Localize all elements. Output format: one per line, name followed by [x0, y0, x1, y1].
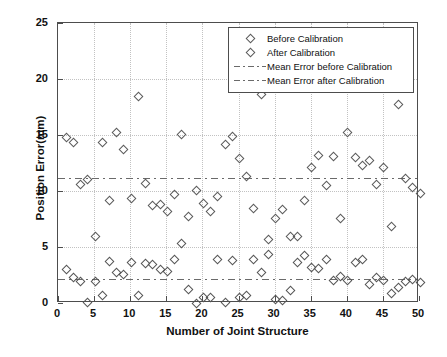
y-tick-label: 20	[0, 73, 56, 84]
data-point	[372, 179, 382, 189]
data-point	[162, 206, 172, 216]
x-axis-title: Number of Joint Structure	[57, 325, 418, 337]
data-point	[76, 277, 86, 287]
legend-label: Mean Error after Calibration	[267, 75, 384, 86]
x-tick-label: 25	[231, 308, 243, 319]
data-point	[386, 289, 396, 299]
x-tick-label: 35	[304, 308, 316, 319]
data-point	[328, 151, 338, 161]
data-point	[321, 254, 331, 264]
data-point	[220, 298, 230, 308]
data-point	[97, 290, 107, 300]
data-point	[227, 131, 237, 141]
data-point	[97, 138, 107, 148]
y-tick-label: 25	[0, 17, 56, 28]
data-point	[83, 297, 93, 307]
diamond-marker-icon	[245, 34, 255, 44]
data-point	[119, 144, 129, 154]
data-point	[242, 171, 252, 181]
data-point	[177, 239, 187, 249]
diamond-marker-icon	[245, 48, 255, 58]
y-tick-mark	[58, 303, 63, 304]
dashdot-line-icon	[234, 66, 266, 67]
data-point	[68, 138, 78, 148]
legend-label: After Calibration	[267, 47, 335, 58]
data-point	[112, 128, 122, 138]
x-tick-label: 10	[123, 308, 135, 319]
x-tick-label: 5	[90, 308, 96, 319]
data-point	[184, 212, 194, 222]
data-point	[278, 295, 288, 305]
data-point	[249, 254, 259, 264]
data-point	[206, 292, 216, 302]
legend[interactable]: Before CalibrationAfter CalibrationMean …	[228, 27, 414, 93]
legend-item[interactable]: Mean Error before Calibration	[233, 60, 409, 73]
legend-item[interactable]: Before Calibration	[233, 32, 409, 45]
x-tick-label: 20	[195, 308, 207, 319]
data-point	[415, 188, 425, 198]
data-point	[379, 162, 389, 172]
legend-label: Before Calibration	[267, 33, 343, 44]
figure-scatter-position-error: Position Error(mm) Number of Joint Struc…	[0, 0, 447, 357]
legend-item[interactable]: After Calibration	[233, 46, 409, 59]
data-point	[133, 92, 143, 102]
data-point	[126, 258, 136, 268]
data-point	[235, 153, 245, 163]
data-point	[300, 196, 310, 206]
data-point	[336, 214, 346, 224]
dashdot-line-icon	[234, 80, 266, 81]
data-point	[170, 189, 180, 199]
data-point	[292, 232, 302, 242]
data-point	[119, 270, 129, 280]
data-point	[292, 258, 302, 268]
data-point	[90, 232, 100, 242]
data-point	[365, 280, 375, 290]
data-point	[198, 198, 208, 208]
data-point	[263, 250, 273, 260]
data-point	[227, 255, 237, 265]
data-point	[206, 206, 216, 216]
x-tick-label: 0	[54, 308, 60, 319]
data-point	[393, 100, 403, 110]
data-point	[133, 291, 143, 301]
legend-marker	[233, 35, 267, 42]
data-point	[90, 277, 100, 287]
data-point	[379, 276, 389, 286]
data-point	[307, 162, 317, 172]
data-point	[285, 286, 295, 296]
data-point	[191, 186, 201, 196]
data-point	[300, 251, 310, 261]
data-point	[220, 140, 230, 150]
data-point	[184, 284, 194, 294]
x-tick-label: 50	[412, 308, 424, 319]
data-point	[256, 268, 266, 278]
data-point	[314, 150, 324, 160]
data-point	[401, 174, 411, 184]
legend-line-sample	[233, 66, 267, 67]
x-tick-label: 40	[340, 308, 352, 319]
data-point	[249, 204, 259, 214]
x-tick-mark	[419, 296, 420, 301]
data-point	[386, 222, 396, 232]
x-tick-label: 30	[267, 308, 279, 319]
data-point	[343, 276, 353, 286]
data-point	[105, 196, 115, 206]
data-point	[343, 128, 353, 138]
data-point	[242, 291, 252, 301]
data-point	[105, 256, 115, 266]
data-point	[278, 205, 288, 215]
legend-marker	[233, 49, 267, 56]
data-point	[271, 214, 281, 224]
legend-item[interactable]: Mean Error after Calibration	[233, 74, 409, 87]
y-axis-title: Position Error(mm)	[34, 68, 46, 268]
data-point	[61, 264, 71, 274]
data-point	[126, 194, 136, 204]
data-point	[321, 180, 331, 190]
data-point	[141, 178, 151, 188]
x-tick-label: 15	[159, 308, 171, 319]
data-point	[213, 254, 223, 264]
legend-line-sample	[233, 80, 267, 81]
y-tick-label: 10	[0, 185, 56, 196]
y-tick-label: 5	[0, 241, 56, 252]
data-point	[350, 152, 360, 162]
